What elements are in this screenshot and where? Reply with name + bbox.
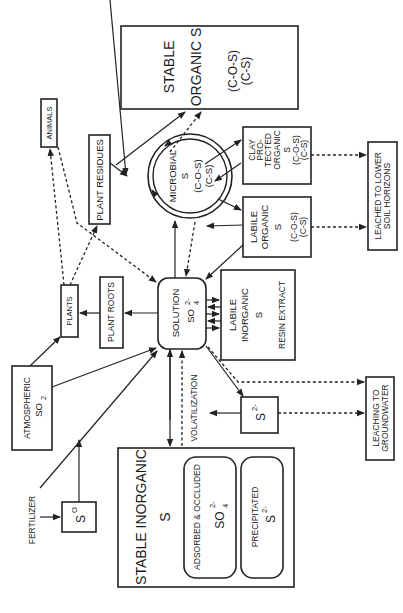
- labile-organic-line2: ORGANIC: [259, 205, 270, 249]
- labile-organic-line1: LABILE: [248, 211, 259, 243]
- stable-organic-s-box: STABLE ORGANIC S (C-O-S) (C-S): [121, 26, 298, 109]
- adsorbed-occluded-box: ADSORBED & OCCLUDED SO 2- 4: [184, 457, 236, 578]
- labile-inorganic-s-box: LABILE INORGANIC S RESIN EXTRACT: [221, 270, 295, 360]
- plant-residues-box: PLANT RESIDUES: [89, 135, 110, 224]
- microbial-line4: (C-S): [203, 165, 214, 188]
- clay-line4: ORGANIC: [272, 130, 282, 170]
- microbial-line1: MICROBIAL: [167, 150, 178, 202]
- stable-organic-line3: (C-O-S): [226, 50, 240, 92]
- animals-label: ANIMALS: [45, 107, 54, 140]
- microbial-line2: S: [179, 173, 190, 179]
- leaching-groundwater-line2: GROUNDWATER: [380, 384, 390, 452]
- atmospheric-so2-box: ATMOSPHERIC SO 2: [12, 366, 52, 450]
- clay-protected-organic-s-box: CLAY PRO- TECTED ORGANIC S (C-O-S) (C-S): [243, 127, 311, 184]
- microbial-s-circle: MICROBIAL S (C-O-S) (C-S): [148, 134, 232, 218]
- sulfur-cycle-diagram: STABLE ORGANIC S (C-O-S) (C-S) ANIMALS P…: [0, 0, 403, 613]
- adsorbed-ion: SO: [213, 511, 227, 528]
- stable-organic-line1: STABLE: [161, 41, 177, 94]
- stable-inorganic-s-box: STABLE INORGANIC S ADSORBED & OCCLUDED S…: [118, 448, 294, 587]
- stable-organic-line4: (C-S): [239, 57, 253, 86]
- adsorbed-ion-sup: 2-: [208, 501, 217, 508]
- labile-organic-s-box: LABILE ORGANIC S (C-O-S) (C-S): [243, 197, 311, 257]
- precipitated-box: PRECIPITATED S 2-: [241, 457, 283, 578]
- precipitated-label: PRECIPITATED: [250, 487, 260, 548]
- leaching-groundwater-box: LEACHING TO GROUNDWATER: [366, 377, 394, 460]
- labile-inorganic-line3: S: [253, 312, 264, 318]
- solution-label: SOLUTION: [170, 289, 181, 338]
- precipitated-ion: S: [264, 515, 278, 523]
- fertilizer-label: FERTILIZER: [27, 496, 37, 545]
- atmospheric-ion: SO: [33, 403, 44, 417]
- labile-organic-line3: S: [272, 224, 283, 230]
- elemental-sulfur-box: S O: [62, 502, 96, 532]
- plants-label: PLANTS: [65, 296, 74, 325]
- elemental-sulfur-sup: O: [70, 507, 79, 513]
- plant-roots-label: PLANT ROOTS: [106, 282, 116, 342]
- adsorbed-label: ADSORBED & OCCLUDED: [192, 464, 202, 570]
- leached-lower-line2: SOIL HORIZONS: [382, 163, 392, 230]
- solution-ion-sub: 4: [192, 301, 201, 305]
- plants-box: PLANTS: [61, 285, 78, 337]
- adsorbed-ion-sub: 4: [221, 504, 230, 508]
- sulfide-ion: S: [254, 413, 268, 421]
- labile-organic-line5: (C-S): [298, 217, 308, 237]
- clay-line7: (C-S): [299, 140, 309, 160]
- plant-residues-label: PLANT RESIDUES: [94, 139, 105, 221]
- sulfide-box: S 2-: [241, 397, 278, 433]
- atmospheric-label: ATMOSPHERIC: [22, 377, 32, 439]
- labile-inorganic-line2: INORGANIC: [239, 288, 250, 342]
- atmospheric-ion-sub: 2: [39, 396, 48, 400]
- animals-box: ANIMALS: [41, 99, 57, 147]
- leached-lower-horizons-box: LEACHED TO LOWER SOIL HORIZONS: [368, 142, 397, 250]
- solution-ion: SO: [185, 309, 196, 323]
- precipitated-ion-sup: 2-: [260, 506, 269, 513]
- solution-ion-sup: 2-: [183, 298, 192, 305]
- solution-box: SOLUTION SO 2- 4: [158, 278, 206, 349]
- sulfide-ion-sup: 2-: [250, 404, 259, 411]
- elemental-sulfur-ion: S: [74, 515, 88, 523]
- plant-roots-box: PLANT ROOTS: [100, 277, 123, 348]
- labile-inorganic-line1: LABILE: [227, 299, 238, 331]
- labile-inorganic-line4: RESIN EXTRACT: [277, 281, 287, 349]
- volatilization-label: VOLATILIZATION: [189, 374, 199, 441]
- stable-inorganic-line1: STABLE INORGANIC: [133, 449, 149, 585]
- microbial-line3: (C-O-S): [192, 159, 203, 192]
- stable-inorganic-line2: S: [157, 512, 173, 521]
- stable-organic-line2: ORGANIC S: [188, 28, 204, 107]
